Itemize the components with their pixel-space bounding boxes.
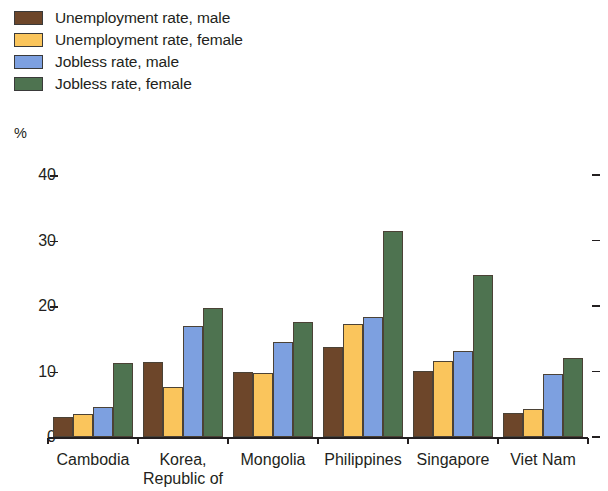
x-axis-tick-mark [497, 438, 498, 444]
x-axis-tick-mark [317, 438, 318, 444]
bar [273, 342, 293, 437]
y-axis-tick: 30 [0, 233, 56, 249]
bar [563, 358, 583, 437]
bar [503, 413, 523, 437]
x-axis-category-label-line: Republic of [123, 469, 243, 488]
bar [183, 326, 203, 437]
bar [293, 322, 313, 437]
x-axis-tick-mark [47, 438, 48, 444]
y-axis-tick: 40 [0, 167, 56, 183]
y-axis-tick: 20 [0, 298, 56, 314]
bar [253, 373, 273, 437]
bar [143, 362, 163, 437]
bar-chart-plot-area: 403020100CambodiaKorea,Republic ofMongol… [0, 0, 608, 491]
bar [203, 308, 223, 437]
bar [363, 317, 383, 437]
y-axis-tick-mark-right [592, 305, 600, 307]
y-axis-tick-mark-right [592, 436, 600, 438]
bar [523, 409, 543, 437]
bar [73, 414, 93, 437]
y-axis-tick: 10 [0, 364, 56, 380]
x-axis-tick-mark [587, 438, 588, 444]
bar [453, 351, 473, 437]
y-axis-tick-mark [50, 372, 58, 374]
bar [433, 361, 453, 437]
y-axis-tick-mark [50, 306, 58, 308]
bar [383, 231, 403, 437]
x-axis-tick-mark [227, 438, 228, 444]
bar [93, 407, 113, 437]
x-axis-tick-mark [407, 438, 408, 444]
bar [233, 372, 253, 438]
bar [53, 417, 73, 437]
x-axis-tick-mark [137, 438, 138, 444]
x-axis-category-label-line: Viet Nam [483, 450, 603, 469]
y-axis-tick-mark-right [592, 240, 600, 242]
bar [413, 371, 433, 437]
bar [323, 347, 343, 437]
bar [343, 324, 363, 437]
y-axis-tick-mark-right [592, 371, 600, 373]
bar [163, 387, 183, 437]
y-axis-tick-mark [50, 241, 58, 243]
bar [543, 374, 563, 437]
bar [473, 275, 493, 437]
bar [113, 363, 133, 437]
x-axis-category-label: Viet Nam [483, 450, 603, 469]
y-axis-tick-mark-right [592, 174, 600, 176]
y-axis-tick-mark [50, 175, 58, 177]
